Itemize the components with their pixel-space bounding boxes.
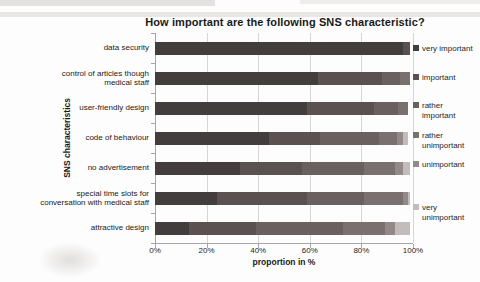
bar-segment-very-important <box>155 222 189 235</box>
x-tick-label: 20% <box>199 246 215 255</box>
bar-segment-very-important <box>155 162 240 175</box>
y-tick-mark <box>151 123 155 124</box>
x-tick-label: 0% <box>149 246 161 255</box>
legend-item: unimportant <box>413 160 474 170</box>
bar-segment-very-unimportant <box>408 192 411 205</box>
legend-label: rather important <box>422 101 474 120</box>
legend-label: very important <box>422 44 474 54</box>
category-label: code of behaviour <box>0 123 149 153</box>
stacked-bar <box>155 72 413 85</box>
bar-segment-important <box>307 102 374 115</box>
bar-segment-unimportant <box>385 222 395 235</box>
bar-segment-very-important <box>155 132 269 145</box>
bar-segment-very-important <box>155 72 318 85</box>
x-tick-label: 80% <box>353 246 369 255</box>
legend-swatch <box>413 161 419 167</box>
x-tick-label: 40% <box>250 246 266 255</box>
category-labels: data securitycontrol of articles though … <box>0 33 149 243</box>
bar-segment-important <box>318 72 383 85</box>
bar-segment-important <box>269 132 321 145</box>
legend-item: important <box>413 73 474 83</box>
legend-item: very important <box>413 44 474 54</box>
x-tick-labels: 0%20%40%60%80%100% <box>155 246 413 256</box>
scan-artifact <box>300 0 480 4</box>
bar-row <box>155 213 413 243</box>
bar-segment-rather-unimportant <box>364 162 395 175</box>
category-label: control of articles though medical staff <box>0 63 149 93</box>
legend-item: rather unimportant <box>413 131 474 150</box>
chart-figure: How important are the following SNS char… <box>0 0 480 282</box>
y-tick-mark <box>151 213 155 214</box>
bar-segment-rather-important <box>382 72 400 85</box>
stacked-bar <box>155 42 413 55</box>
category-label: user-friendly design <box>0 93 149 123</box>
bar-row <box>155 153 413 183</box>
legend: very importantimportantrather importantr… <box>413 33 479 253</box>
bar-row <box>155 63 413 93</box>
legend-label: important <box>422 73 474 83</box>
bar-segment-rather-unimportant <box>364 192 403 205</box>
y-tick-mark <box>151 33 155 34</box>
legend-swatch <box>413 132 419 138</box>
bar-segment-very-important <box>155 42 403 55</box>
category-label: attractive design <box>0 213 149 243</box>
legend-label: very unimportant <box>422 203 474 222</box>
bar-segment-rather-unimportant <box>398 102 408 115</box>
bar-segment-rather-important <box>374 102 397 115</box>
stacked-bar <box>155 192 413 205</box>
bar-row <box>155 183 413 213</box>
bar-segment-very-unimportant <box>403 162 411 175</box>
bar-segment-unimportant <box>395 162 403 175</box>
stacked-bar <box>155 222 413 235</box>
category-label: data security <box>0 33 149 63</box>
legend-item: rather important <box>413 101 474 120</box>
bar-row <box>155 33 413 63</box>
bar-segment-rather-unimportant <box>379 132 397 145</box>
bar-segment-very-unimportant <box>395 222 410 235</box>
legend-item: very unimportant <box>413 203 474 222</box>
watermark-smudge <box>38 242 102 278</box>
plot-area <box>155 33 413 244</box>
chart-title: How important are the following SNS char… <box>105 16 465 28</box>
bar-row <box>155 93 413 123</box>
bar-segment-important <box>240 162 302 175</box>
y-tick-mark <box>151 153 155 154</box>
stacked-bar <box>155 102 413 115</box>
x-axis-title: proportion in % <box>155 257 413 267</box>
y-tick-mark <box>151 93 155 94</box>
bar-segment-rather-unimportant <box>343 222 384 235</box>
bar-segment-very-unimportant <box>403 132 408 145</box>
scan-artifact <box>0 0 215 6</box>
bar-segment-rather-important <box>302 162 364 175</box>
bar-segment-rather-important <box>307 192 364 205</box>
bar-rows <box>155 33 413 243</box>
stacked-bar <box>155 162 413 175</box>
stacked-bar <box>155 132 413 145</box>
bar-row <box>155 123 413 153</box>
legend-label: unimportant <box>422 160 474 170</box>
legend-swatch <box>413 204 419 210</box>
y-tick-mark <box>151 243 155 244</box>
y-tick-mark <box>151 63 155 64</box>
bar-segment-very-important <box>155 192 217 205</box>
x-tick-label: 60% <box>302 246 318 255</box>
legend-swatch <box>413 74 419 80</box>
y-tick-mark <box>151 183 155 184</box>
bar-segment-rather-important <box>320 132 379 145</box>
bar-segment-rather-important <box>256 222 344 235</box>
bar-segment-important <box>217 192 307 205</box>
category-label: no advertisement <box>0 153 149 183</box>
bar-segment-very-important <box>155 102 307 115</box>
bar-segment-important <box>189 222 256 235</box>
category-label: special time slots for conversation with… <box>0 183 149 213</box>
legend-swatch <box>413 102 419 108</box>
bar-segment-important <box>403 42 411 55</box>
legend-label: rather unimportant <box>422 131 474 150</box>
legend-swatch <box>413 45 419 51</box>
bar-segment-rather-unimportant <box>400 72 410 85</box>
